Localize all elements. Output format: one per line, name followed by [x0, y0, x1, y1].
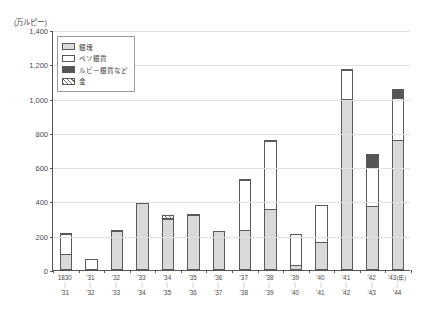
- x-label-dash: ｜: [367, 282, 375, 289]
- x-label-end: '40: [291, 289, 299, 297]
- x-label-start: '32: [112, 274, 120, 282]
- y-axis-tick-label: 400: [35, 198, 48, 207]
- x-label-start: '34: [163, 274, 171, 282]
- y-axis-tick-mark: [50, 31, 53, 32]
- x-axis-label: '42｜'43: [367, 274, 375, 297]
- y-axis-tick-label: 1,400: [29, 27, 48, 36]
- x-label-dash: ｜: [112, 282, 120, 289]
- x-axis-label: '35｜'36: [188, 274, 196, 297]
- x-axis-label: '38｜'39: [265, 274, 273, 297]
- legend-label: ルビー銀貨など: [79, 65, 128, 75]
- x-axis-label: '34｜'35: [163, 274, 171, 297]
- x-label-start: 1830: [58, 274, 72, 282]
- x-label-dash: ｜: [316, 282, 324, 289]
- bar-segment-ingot: [264, 209, 277, 270]
- legend-label: 金: [79, 76, 86, 86]
- x-label-start: '43(年): [388, 274, 406, 282]
- bar-segment-peso: [264, 141, 277, 210]
- bar-stack[interactable]: [187, 214, 200, 270]
- x-label-end: '36: [188, 289, 196, 297]
- chart-root: (万ルピー) 02004006008001,0001,2001,400 1830…: [0, 0, 424, 320]
- x-label-start: '38: [265, 274, 273, 282]
- x-label-dash: ｜: [240, 282, 248, 289]
- peso-swatch-icon: [62, 55, 75, 62]
- bar-segment-peso: [290, 234, 303, 266]
- x-axis-label: '43(年)｜'44: [388, 274, 406, 297]
- x-label-dash: ｜: [58, 282, 72, 289]
- x-axis-label: '32｜'33: [112, 274, 120, 297]
- y-axis-unit-label: (万ルピー): [14, 16, 47, 27]
- y-axis-tick-label: 600: [35, 164, 48, 173]
- x-label-end: '37: [214, 289, 222, 297]
- x-label-dash: ｜: [137, 282, 145, 289]
- bar-segment-ingot: [366, 206, 379, 270]
- bar-segment-ingot: [60, 254, 73, 270]
- x-axis-tick-mark: [360, 270, 361, 273]
- x-axis-label: '41｜'42: [342, 274, 350, 297]
- y-axis-tick-label: 800: [35, 129, 48, 138]
- x-axis-tick-mark: [385, 270, 386, 273]
- bar-stack[interactable]: [290, 234, 303, 270]
- x-label-end: '43: [367, 289, 375, 297]
- legend-item[interactable]: ルビー銀貨など: [62, 65, 128, 75]
- x-axis-label: '39｜'40: [291, 274, 299, 297]
- x-axis-tick-mark: [258, 270, 259, 273]
- x-label-end: '33: [112, 289, 120, 297]
- y-axis-tick-label: 0: [44, 267, 48, 276]
- x-label-dash: ｜: [214, 282, 222, 289]
- bar-segment-peso: [366, 168, 379, 207]
- x-axis-tick-mark: [181, 270, 182, 273]
- bar-stack[interactable]: [162, 215, 175, 270]
- x-axis-label: '40｜'41: [316, 274, 324, 297]
- gridline: [53, 237, 410, 238]
- x-label-dash: ｜: [388, 282, 406, 289]
- x-label-end: '41: [316, 289, 324, 297]
- bar-segment-ingot: [341, 99, 354, 270]
- x-label-end: '32: [86, 289, 94, 297]
- x-axis-tick-mark: [79, 270, 80, 273]
- bar-stack[interactable]: [392, 89, 405, 270]
- gridline: [53, 202, 410, 203]
- bar-segment-ingot: [392, 140, 405, 270]
- gridline: [53, 100, 410, 101]
- bar-segment-ingot: [315, 242, 328, 270]
- x-axis-label: '36｜'37: [214, 274, 222, 297]
- x-label-start: '40: [316, 274, 324, 282]
- y-axis-tick-mark: [50, 65, 53, 66]
- ingot-swatch-icon: [62, 43, 75, 50]
- x-label-start: '35: [188, 274, 196, 282]
- legend-label: ペソ銀貨: [79, 53, 107, 63]
- y-axis-tick-mark: [50, 202, 53, 203]
- x-label-dash: ｜: [291, 282, 299, 289]
- bar-segment-peso: [239, 180, 252, 231]
- legend: 銀塊 ペソ銀貨 ルビー銀貨など 金: [57, 36, 135, 92]
- gridline: [53, 168, 410, 169]
- x-label-start: '33: [137, 274, 145, 282]
- bar-segment-peso: [85, 259, 98, 270]
- x-axis-tick-mark: [206, 270, 207, 273]
- gold-swatch-icon: [62, 78, 75, 85]
- legend-item[interactable]: 銀塊: [62, 42, 128, 52]
- gridline: [53, 134, 410, 135]
- x-label-end: '38: [240, 289, 248, 297]
- bar-stack[interactable]: [85, 259, 98, 270]
- x-axis-label: '31｜'32: [86, 274, 94, 297]
- bar-stack[interactable]: [60, 233, 73, 270]
- bar-stack[interactable]: [264, 140, 277, 270]
- y-axis-tick-label: 1,000: [29, 95, 48, 104]
- y-axis-tick-mark: [50, 134, 53, 135]
- bar-stack[interactable]: [239, 179, 252, 270]
- legend-item[interactable]: 金: [62, 76, 128, 86]
- x-label-dash: ｜: [163, 282, 171, 289]
- bar-stack[interactable]: [366, 154, 379, 270]
- legend-item[interactable]: ペソ銀貨: [62, 53, 128, 63]
- x-axis-tick-mark: [53, 270, 54, 273]
- x-label-start: '36: [214, 274, 222, 282]
- x-axis-tick-mark: [104, 270, 105, 273]
- legend-label: 銀塊: [79, 42, 93, 52]
- y-axis-tick-mark: [50, 168, 53, 169]
- x-axis-tick-mark: [155, 270, 156, 273]
- x-label-start: '39: [291, 274, 299, 282]
- bar-segment-ingot: [290, 265, 303, 270]
- y-axis-tick-label: 1,200: [29, 61, 48, 70]
